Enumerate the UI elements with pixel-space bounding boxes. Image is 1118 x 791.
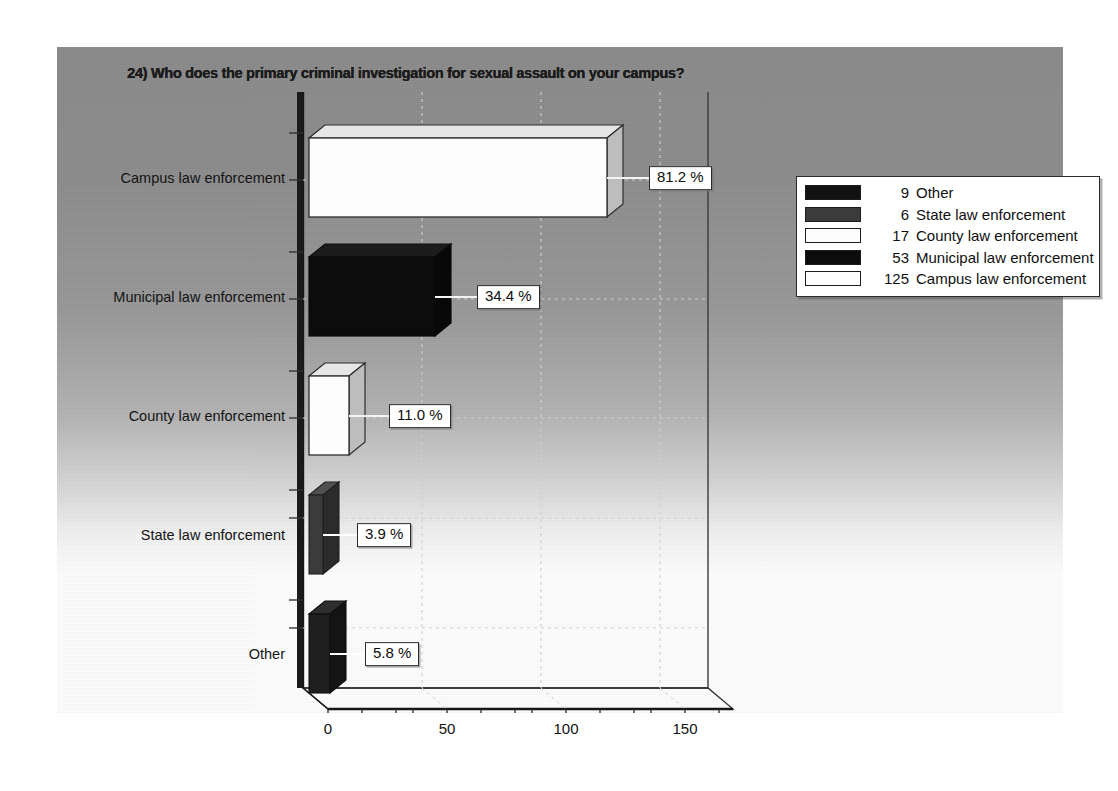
legend-item-campus-law-enforcement[interactable]: 125 Campus law enforcement: [797, 268, 1099, 290]
legend-item-county-law-enforcement[interactable]: 17 County law enforcement: [797, 225, 1099, 247]
legend-swatch-county-law-enforcement: [805, 228, 861, 243]
x-axis-tick-50: 50: [417, 720, 477, 737]
legend-count-municipal-law-enforcement: 53: [865, 249, 909, 266]
chart-legend: 9 Other 6 State law enforcement 17 Count…: [796, 176, 1100, 297]
y-axis-label-county: County law enforcement: [71, 408, 285, 424]
legend-swatch-other: [805, 185, 861, 200]
x-axis-tick-0: 0: [298, 720, 358, 737]
legend-count-campus-law-enforcement: 125: [865, 270, 909, 287]
bar-state-law-enforcement[interactable]: [309, 482, 339, 574]
legend-item-municipal-law-enforcement[interactable]: 53 Municipal law enforcement: [797, 247, 1099, 269]
bar-other[interactable]: [309, 601, 346, 693]
bar-campus-law-enforcement[interactable]: [309, 125, 623, 217]
bar-chart-plot: [57, 47, 1063, 713]
legend-swatch-municipal-law-enforcement: [805, 250, 861, 265]
x-axis-tick-100: 100: [536, 720, 596, 737]
datalabel-other: 5.8 %: [365, 642, 419, 666]
legend-swatch-state-law-enforcement: [805, 207, 861, 222]
y-axis-label-other: Other: [71, 646, 285, 662]
grid-lines-floor: [422, 688, 685, 709]
x-axis-tick-150: 150: [655, 720, 715, 737]
chart-panel: 24) Who does the primary criminal invest…: [57, 47, 1063, 713]
legend-item-state-law-enforcement[interactable]: 6 State law enforcement: [797, 204, 1099, 226]
y-axis-label-campus: Campus law enforcement: [71, 170, 285, 186]
y-axis-label-state: State law enforcement: [71, 527, 285, 543]
bar-municipal-law-enforcement[interactable]: [309, 244, 451, 336]
bar-county-law-enforcement[interactable]: [309, 363, 365, 455]
legend-label-county-law-enforcement: County law enforcement: [916, 227, 1078, 244]
datalabel-campus: 81.2 %: [649, 166, 712, 190]
datalabel-county: 11.0 %: [389, 404, 451, 428]
plot-floor: [303, 688, 733, 709]
datalabel-municipal: 34.4 %: [477, 285, 540, 309]
legend-swatch-campus-law-enforcement: [805, 271, 861, 286]
legend-count-other: 9: [865, 184, 909, 201]
legend-count-state-law-enforcement: 6: [865, 206, 909, 223]
legend-label-state-law-enforcement: State law enforcement: [916, 206, 1065, 223]
legend-label-other: Other: [916, 184, 954, 201]
legend-count-county-law-enforcement: 17: [865, 227, 909, 244]
y-axis-label-municipal: Municipal law enforcement: [71, 289, 285, 305]
chart-title: 24) Who does the primary criminal invest…: [127, 65, 684, 81]
legend-item-other[interactable]: 9 Other: [797, 182, 1099, 204]
legend-label-municipal-law-enforcement: Municipal law enforcement: [916, 249, 1094, 266]
y-axis-spine: [297, 92, 303, 688]
legend-label-campus-law-enforcement: Campus law enforcement: [916, 270, 1086, 287]
datalabel-state: 3.9 %: [357, 523, 411, 547]
